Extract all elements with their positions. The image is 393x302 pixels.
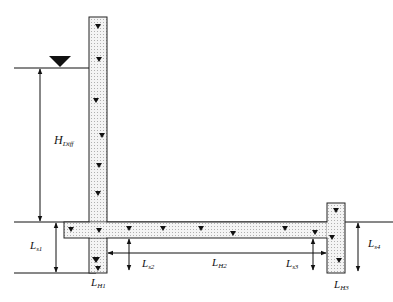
label-h-diff: HDiff [54, 134, 74, 148]
pipe-diagram [0, 0, 393, 302]
label-lh2: LH2 [212, 257, 227, 270]
label-ls2: Ls2 [142, 258, 154, 271]
label-lh3: LH3 [334, 279, 349, 292]
label-ls3: Ls3 [286, 258, 298, 271]
water-level-triangle-icon [49, 56, 71, 67]
vertical-pipe-3 [327, 203, 345, 273]
label-lh1: LH1 [91, 277, 106, 290]
label-ls4: Ls4 [368, 238, 380, 251]
label-ls1: Ls1 [30, 240, 42, 253]
